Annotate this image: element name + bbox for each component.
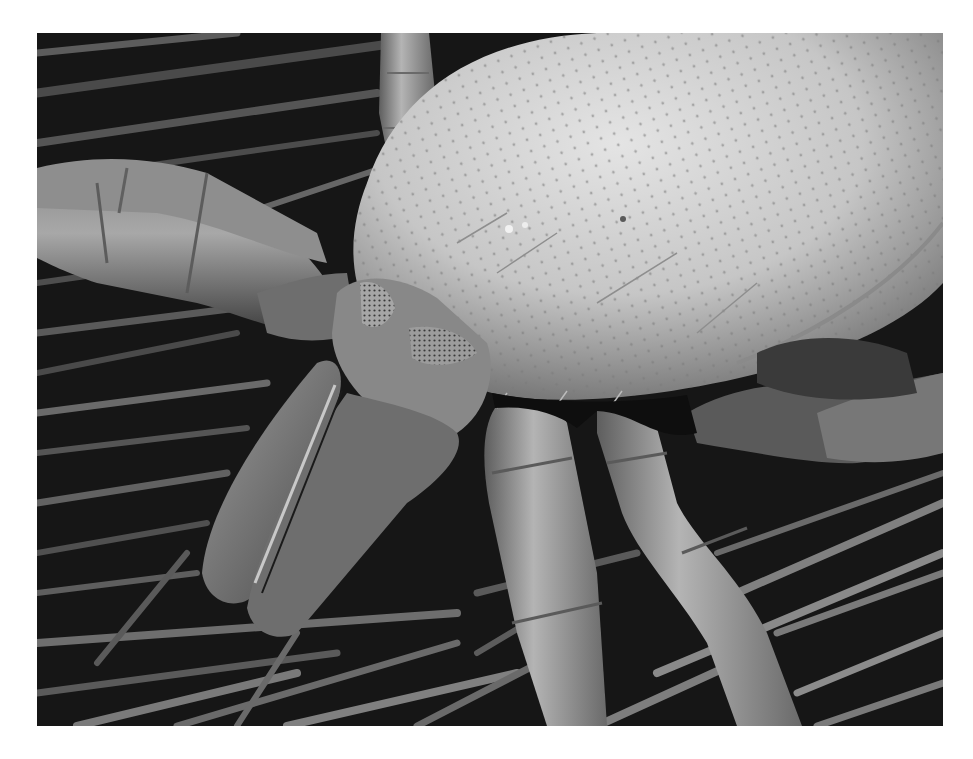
mite-micrograph	[37, 33, 943, 726]
micrograph-frame	[37, 33, 943, 726]
